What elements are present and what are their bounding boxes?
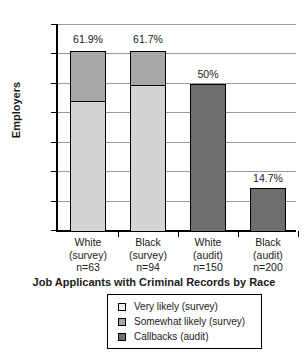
legend-item[interactable]: Very likely (survey) [108,299,261,314]
x-category-line: Black [237,236,299,249]
y-tick-mark [51,112,57,113]
bar-segment[interactable] [130,51,166,86]
y-tick-mark [51,24,57,25]
y-tick-mark [51,171,57,172]
bar-segment[interactable] [190,84,226,231]
bar-segment[interactable] [250,188,286,231]
chart-figure: Employers 70.0%60.0%50.0%40.0%30.0%20.0%… [0,0,308,353]
bar-segment[interactable] [70,51,106,103]
plot-area: 70.0%60.0%50.0%40.0%30.0%20.0%10.0%0.0% … [56,24,296,232]
chart-legend: Very likely (survey)Somewhat likely (sur… [107,294,262,349]
x-axis-title: Job Applicants with Criminal Records by … [0,276,308,288]
legend-label: Callbacks (audit) [134,331,208,342]
gridline [58,24,296,25]
bar-value-label: 61.9% [73,33,103,45]
y-tick-mark [51,230,57,231]
x-category-line: White [177,236,239,249]
bar-value-label: 50% [197,68,218,80]
legend-label: Very likely (survey) [134,301,218,312]
x-category-line: n=150 [177,261,239,274]
bar-column[interactable] [190,84,226,230]
bar-value-label: 61.7% [133,33,163,45]
x-category-line: (survey) [117,249,179,262]
bar-value-label: 14.7% [253,172,283,184]
legend-label: Somewhat likely (survey) [134,316,245,327]
legend-swatch-icon [118,333,126,341]
bar-column[interactable] [70,51,106,230]
legend-item[interactable]: Somewhat likely (survey) [108,314,261,329]
x-category-line: Black [117,236,179,249]
x-category-line: (audit) [177,249,239,262]
bar-column[interactable] [130,51,166,230]
x-category-label: White(survey)n=63 [57,236,119,274]
x-category-label: Black(survey)n=94 [117,236,179,274]
bar-column[interactable] [250,188,286,230]
legend-swatch-icon [118,318,126,326]
legend-swatch-icon [118,303,126,311]
x-category-label: Black(audit)n=200 [237,236,299,274]
y-axis-title: Employers [10,70,22,150]
x-category-line: n=63 [57,261,119,274]
x-category-line: n=200 [237,261,299,274]
x-category-line: n=94 [117,261,179,274]
x-category-label: White(audit)n=150 [177,236,239,274]
bar-segment[interactable] [70,101,106,232]
x-category-line: (audit) [237,249,299,262]
y-tick-mark [51,201,57,202]
y-tick-mark [51,83,57,84]
y-tick-mark [51,142,57,143]
x-category-line: White [57,236,119,249]
legend-item[interactable]: Callbacks (audit) [108,329,261,344]
y-tick-mark [51,53,57,54]
x-axis-category-labels: White(survey)n=63Black(survey)n=94White(… [56,236,296,276]
bar-segment[interactable] [130,85,166,231]
x-category-line: (survey) [57,249,119,262]
